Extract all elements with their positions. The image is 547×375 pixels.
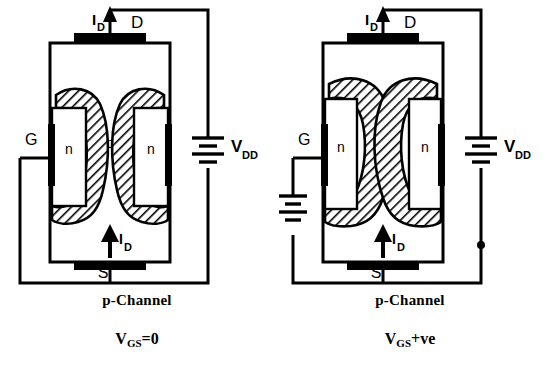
gate-terminal-label: G [298,131,310,148]
gate-contact-right [165,124,172,186]
caption-bias-left-tail: =0 [142,330,159,347]
caption-bias-right-tail: +ve [411,330,435,347]
battery-vdd [192,138,224,162]
id-top-main: I [92,11,96,28]
source-contact-bar [74,262,146,270]
vdd-sub: DD [242,149,258,161]
gate-contact-left [48,124,55,186]
caption-bias-left-sub: GS [127,337,142,349]
id-bottom-main: I [392,231,396,247]
caption-bias-right-sub: GS [396,337,411,349]
drain-current-arrow-bottom [374,224,392,258]
n-regions: n n [52,108,168,206]
gate-contact-right [438,124,445,186]
vdd-sub: DD [515,149,531,161]
n-region-left-label: n [337,139,345,155]
gate-terminal-label: G [25,131,37,148]
gate-contact-left [321,124,328,186]
source-terminal-label: S [371,264,382,281]
supply-label-vdd: V DD [504,137,531,161]
source-terminal-label: S [98,264,109,281]
battery-vgg [279,196,307,220]
panel-p-channel-vgs-positive: p n n [273,0,547,375]
drain-current-label-top: I D [365,11,378,33]
caption-channel-type-right: p-Channel [273,292,547,309]
drain-current-label-bottom: I D [392,231,405,253]
panel-p-channel-vgs-zero: p n n [0,0,274,375]
source-contact-bar [347,262,419,270]
id-bottom-sub: D [124,241,132,253]
drain-contact-bar [74,33,146,43]
id-top-sub: D [370,21,378,33]
drain-current-label-top: I D [92,11,105,33]
left-circuit-svg: p n n [0,0,274,290]
n-region-left-box [52,108,86,206]
junction-dot [477,241,485,249]
n-region-right-label: n [147,141,155,157]
caption-bias-left-main: V [115,330,127,347]
battery-vdd [465,138,497,162]
right-circuit-svg: p n n [273,0,547,290]
drain-terminal-label: D [131,13,143,32]
drain-current-arrow-bottom [101,224,119,258]
supply-label-vdd: V DD [231,137,258,161]
drain-current-label-bottom: I D [119,231,132,253]
n-region-right-label: n [421,139,429,155]
caption-channel-type-left: p-Channel [0,292,274,309]
id-bottom-sub: D [397,241,405,253]
n-region-right-box [134,108,168,206]
jfet-figure-page: p n n [0,0,547,375]
caption-bias-left: VGS=0 [0,330,274,349]
caption-bias-right-main: V [385,330,397,347]
id-top-main: I [365,11,369,28]
caption-bias-right: VGS+ve [273,330,547,349]
id-bottom-main: I [119,231,123,247]
drain-terminal-label: D [404,13,416,32]
drain-contact-bar [347,33,419,43]
id-top-sub: D [97,21,105,33]
n-region-left-label: n [65,141,73,157]
